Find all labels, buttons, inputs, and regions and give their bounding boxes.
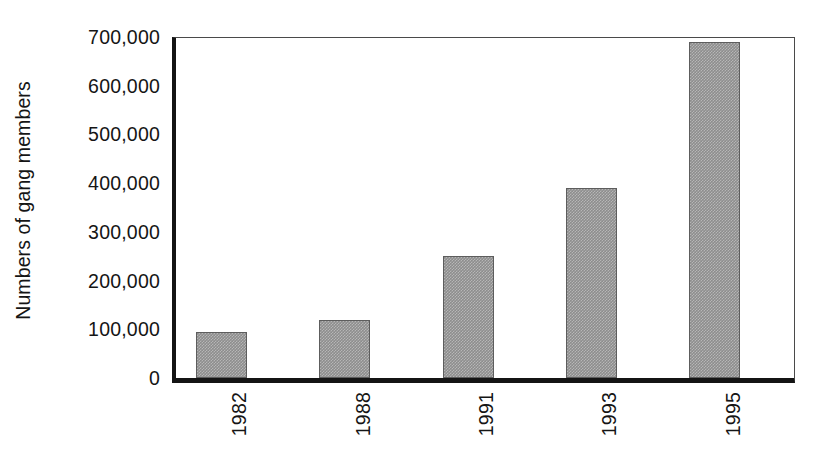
y-tick-label: 400,000 — [88, 172, 160, 195]
x-axis-tick-labels: 19821988199119931995 — [177, 383, 794, 464]
y-tick-label: 200,000 — [88, 269, 160, 292]
bar-1988 — [319, 320, 370, 378]
x-tick-label: 1988 — [352, 392, 375, 436]
y-axis-title: Numbers of gang members — [0, 0, 46, 400]
x-tick-label: 1982 — [228, 392, 251, 436]
y-tick-label: 600,000 — [88, 74, 160, 97]
y-tick-label: 0 — [149, 367, 160, 390]
bar-1995 — [689, 42, 740, 378]
y-axis-tick-labels: 0100,000200,000300,000400,000500,000600,… — [46, 0, 168, 464]
y-tick-label: 700,000 — [88, 26, 160, 49]
bar-1993 — [566, 188, 617, 378]
y-tick-label: 300,000 — [88, 220, 160, 243]
x-tick-label: 1993 — [598, 392, 621, 436]
bar-1982 — [196, 332, 247, 378]
bar-1991 — [443, 256, 494, 378]
x-tick-label: 1991 — [475, 392, 498, 436]
y-tick-label: 500,000 — [88, 123, 160, 146]
bar-chart-figure: Numbers of gang members 0100,000200,0003… — [0, 0, 819, 464]
y-tick-label: 100,000 — [88, 318, 160, 341]
bars-layer — [177, 37, 794, 378]
y-axis-title-text: Numbers of gang members — [12, 81, 35, 320]
x-tick-label: 1995 — [722, 392, 745, 436]
